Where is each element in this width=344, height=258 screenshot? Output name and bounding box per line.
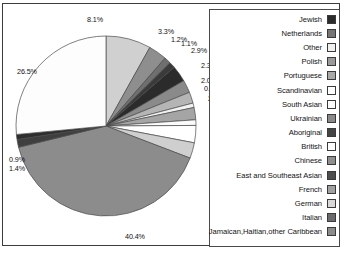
chart-frame: 8.1%3.3%1.2%1.1%2.9%2.3%2.0%0.8%2.2%1.0%… xyxy=(2,3,340,246)
legend-item[interactable]: Polish xyxy=(212,55,336,69)
chart-legend: JewishNetherlandsOtherPolishPortugueseSc… xyxy=(209,9,340,247)
legend-item[interactable]: French xyxy=(212,182,336,196)
legend-color-swatch xyxy=(327,29,336,38)
legend-color-swatch xyxy=(327,15,336,24)
legend-item-label: Netherlands xyxy=(282,29,322,38)
legend-item-label: Other xyxy=(303,43,322,52)
legend-color-swatch xyxy=(327,114,336,123)
legend-color-swatch xyxy=(327,171,336,180)
legend-item-label: Jewish xyxy=(299,15,322,24)
legend-item-label: Chinese xyxy=(294,156,322,165)
legend-item-label: German xyxy=(295,199,322,208)
slice-percent-label: 8.1% xyxy=(87,15,103,24)
legend-item-label: Scandinavian xyxy=(277,86,322,95)
legend-item[interactable]: East and Southeast Asian xyxy=(212,168,336,182)
slice-percent-label: 2.9% xyxy=(191,46,207,55)
legend-item[interactable]: Aboriginal xyxy=(212,126,336,140)
legend-item-label: British xyxy=(301,142,322,151)
legend-color-swatch xyxy=(327,71,336,80)
legend-item-label: Italian xyxy=(302,213,322,222)
legend-color-swatch xyxy=(327,100,336,109)
legend-item[interactable]: Scandinavian xyxy=(212,83,336,97)
slice-percent-label: 1.4% xyxy=(9,164,25,173)
pie-plot-area: 8.1%3.3%1.2%1.1%2.9%2.3%2.0%0.8%2.2%1.0%… xyxy=(3,4,213,247)
legend-item-label: South Asian xyxy=(282,100,322,109)
legend-item[interactable]: Ukrainian xyxy=(212,111,336,125)
legend-color-swatch xyxy=(327,57,336,66)
slice-percent-label: 0.9% xyxy=(9,155,25,164)
legend-color-swatch xyxy=(327,227,336,236)
legend-item[interactable]: Chinese xyxy=(212,154,336,168)
pie-slice[interactable] xyxy=(16,36,106,134)
legend-item-label: Ukrainian xyxy=(290,114,322,123)
slice-percent-label: 26.5% xyxy=(17,67,37,76)
slice-percent-label: 40.4% xyxy=(125,232,145,241)
legend-item[interactable]: Netherlands xyxy=(212,26,336,40)
chart-title-cropped xyxy=(0,0,344,1)
legend-item-label: Portuguese xyxy=(284,71,322,80)
legend-color-swatch xyxy=(327,128,336,137)
legend-color-swatch xyxy=(327,185,336,194)
legend-item-label: Polish xyxy=(302,57,322,66)
legend-item[interactable]: South Asian xyxy=(212,97,336,111)
legend-item[interactable]: Italian xyxy=(212,211,336,225)
legend-item-label: French xyxy=(299,185,322,194)
legend-item-label: East and Southeast Asian xyxy=(236,171,322,180)
legend-item-label: Aboriginal xyxy=(289,128,322,137)
pie-chart-figure: 8.1%3.3%1.2%1.1%2.9%2.3%2.0%0.8%2.2%1.0%… xyxy=(0,0,344,258)
legend-item[interactable]: British xyxy=(212,140,336,154)
legend-item[interactable]: Other xyxy=(212,40,336,54)
legend-color-swatch xyxy=(327,156,336,165)
legend-item[interactable]: Portuguese xyxy=(212,69,336,83)
legend-color-swatch xyxy=(327,86,336,95)
legend-color-swatch xyxy=(327,43,336,52)
legend-color-swatch xyxy=(327,199,336,208)
legend-item[interactable]: German xyxy=(212,196,336,210)
legend-item[interactable]: Jamaican,Haitian,other Caribbean xyxy=(212,225,336,239)
legend-color-swatch xyxy=(327,142,336,151)
legend-color-swatch xyxy=(327,213,336,222)
legend-item-label: Jamaican,Haitian,other Caribbean xyxy=(209,227,322,236)
legend-item[interactable]: Jewish xyxy=(212,12,336,26)
